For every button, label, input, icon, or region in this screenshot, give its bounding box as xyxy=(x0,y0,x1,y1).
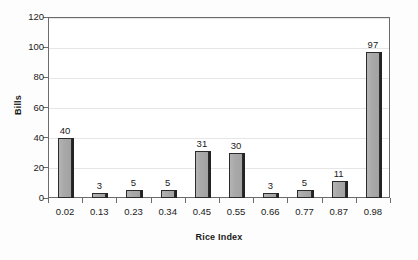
gridline xyxy=(49,48,389,49)
y-tick-label: 80 xyxy=(16,72,44,82)
gridline xyxy=(49,18,389,19)
x-tick-mark xyxy=(287,198,288,203)
x-tick-mark xyxy=(219,198,220,203)
x-tick-label: 0.66 xyxy=(253,207,287,217)
bar xyxy=(58,138,72,198)
bar-value-label: 5 xyxy=(116,178,150,188)
bar xyxy=(126,190,140,198)
x-tick-label: 0.77 xyxy=(287,207,321,217)
x-tick-mark xyxy=(322,198,323,203)
x-tick-label: 0.98 xyxy=(356,207,390,217)
bar xyxy=(297,190,311,198)
bar xyxy=(263,193,277,198)
y-tick-label: 20 xyxy=(16,163,44,173)
x-tick-mark xyxy=(185,198,186,203)
x-tick-mark xyxy=(151,198,152,203)
x-tick-label: 0.87 xyxy=(322,207,356,217)
x-tick-mark xyxy=(390,198,391,203)
x-tick-label: 0.45 xyxy=(185,207,219,217)
x-tick-label: 0.23 xyxy=(116,207,150,217)
bar xyxy=(195,151,209,198)
bar-value-label: 3 xyxy=(253,181,287,191)
bar-value-label: 31 xyxy=(185,139,219,149)
bar-value-label: 30 xyxy=(219,141,253,151)
bar-value-label: 97 xyxy=(356,40,390,50)
x-axis-title: Rice Index xyxy=(48,232,390,242)
y-tick-label: 60 xyxy=(16,103,44,113)
bar-value-label: 5 xyxy=(151,178,185,188)
bar xyxy=(92,193,106,198)
x-tick-mark xyxy=(253,198,254,203)
x-tick-label: 0.34 xyxy=(151,207,185,217)
y-tick-label: 120 xyxy=(16,12,44,22)
x-tick-mark xyxy=(48,198,49,203)
y-tick-label: 100 xyxy=(16,42,44,52)
gridline xyxy=(49,108,389,109)
bar xyxy=(161,190,175,198)
x-tick-mark xyxy=(356,198,357,203)
x-tick-mark xyxy=(82,198,83,203)
gridline xyxy=(49,138,389,139)
y-tick-label: 40 xyxy=(16,133,44,143)
bar xyxy=(366,52,380,198)
gridline xyxy=(49,78,389,79)
y-tick-label: 0 xyxy=(16,193,44,203)
x-tick-mark xyxy=(116,198,117,203)
bar xyxy=(229,153,243,198)
bar xyxy=(332,181,346,198)
bar-value-label: 11 xyxy=(322,169,356,179)
x-tick-label: 0.02 xyxy=(48,207,82,217)
x-tick-label: 0.13 xyxy=(82,207,116,217)
bar-chart: Bills 020406080100120 0.020.130.230.340.… xyxy=(0,0,418,260)
bar-value-label: 5 xyxy=(287,178,321,188)
x-tick-label: 0.55 xyxy=(219,207,253,217)
bar-value-label: 3 xyxy=(82,181,116,191)
bar-value-label: 40 xyxy=(48,126,82,136)
